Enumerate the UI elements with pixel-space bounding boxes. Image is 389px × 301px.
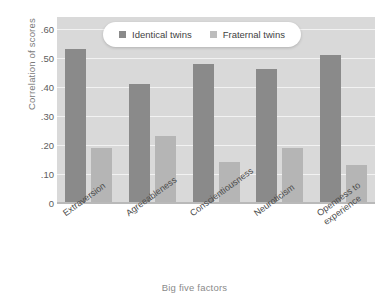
bar xyxy=(65,49,86,203)
legend-swatch-icon xyxy=(119,31,126,38)
bar xyxy=(256,69,277,203)
legend-label: Identical twins xyxy=(132,29,192,40)
chart-legend: Identical twinsFraternal twins xyxy=(103,22,301,47)
bar xyxy=(129,84,150,203)
bar-chart-figure: Correlation of scores 0.10.20.30.40.50.6… xyxy=(0,0,389,301)
x-axis-title: Big five factors xyxy=(0,282,389,293)
y-axis-tick-label: .60 xyxy=(20,23,54,34)
y-axis-tick-label: .50 xyxy=(20,52,54,63)
y-axis-tick-label: 0 xyxy=(20,198,54,209)
y-axis-tick-label: .40 xyxy=(20,81,54,92)
bar xyxy=(320,55,341,203)
legend-swatch-icon xyxy=(210,31,217,38)
y-axis-tick-label: .30 xyxy=(20,110,54,121)
y-axis-tick-label: .10 xyxy=(20,168,54,179)
legend-entry[interactable]: Identical twins xyxy=(119,29,192,40)
legend-entry[interactable]: Fraternal twins xyxy=(210,29,285,40)
y-axis-tick-label: .20 xyxy=(20,139,54,150)
y-axis-tick-labels: 0.10.20.30.40.50.60 xyxy=(20,0,54,301)
legend-label: Fraternal twins xyxy=(223,29,285,40)
bar xyxy=(193,64,214,204)
